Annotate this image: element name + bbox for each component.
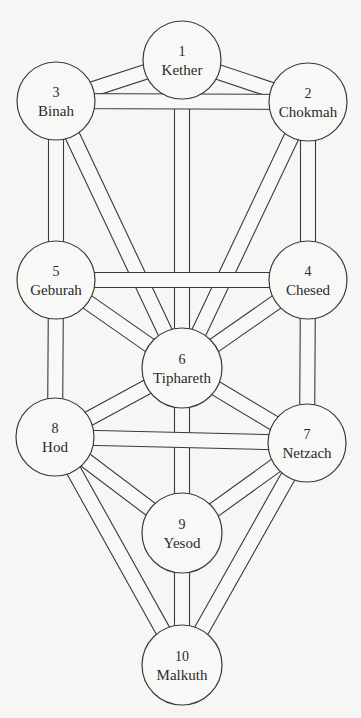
- sephirah-circle: [142, 493, 222, 573]
- sephirah-kether: 1Kether: [143, 21, 221, 99]
- sephirah-number: 5: [53, 264, 60, 279]
- sephirah-circle: [16, 398, 94, 476]
- sephirah-tiphareth: 6Tiphareth: [142, 328, 222, 408]
- sephirah-name: Geburah: [30, 282, 82, 298]
- sephirah-circle: [269, 63, 347, 141]
- sephirah-name: Tiphareth: [153, 370, 211, 386]
- sephirah-name: Yesod: [164, 535, 201, 551]
- sephirah-yesod: 9Yesod: [142, 493, 222, 573]
- sephirah-number: 1: [179, 44, 186, 59]
- sephirah-name: Malkuth: [157, 667, 208, 683]
- sephirah-circle: [268, 404, 346, 482]
- sephirah-circle: [142, 625, 222, 705]
- sephirah-circle: [143, 21, 221, 99]
- sephirah-number: 2: [305, 86, 312, 101]
- sephirah-name: Chesed: [286, 282, 331, 298]
- sephirah-number: 9: [179, 517, 186, 532]
- sephirah-chokmah: 2Chokmah: [269, 63, 347, 141]
- sephirah-name: Chokmah: [279, 104, 338, 120]
- sephirah-circle: [17, 62, 95, 140]
- sephirah-number: 10: [175, 649, 189, 664]
- tree-of-life-diagram: 1Kether2Chokmah3Binah4Chesed5Geburah6Tip…: [0, 0, 361, 718]
- sephirah-circle: [17, 241, 95, 319]
- sephirah-name: Hod: [42, 439, 68, 455]
- sephirah-geburah: 5Geburah: [17, 241, 95, 319]
- sephirah-binah: 3Binah: [17, 62, 95, 140]
- sephirah-chesed: 4Chesed: [269, 241, 347, 319]
- sephirah-number: 4: [305, 264, 312, 279]
- sephirah-name: Kether: [162, 62, 203, 78]
- sephirah-number: 3: [53, 85, 60, 100]
- sephirah-malkuth: 10Malkuth: [142, 625, 222, 705]
- sephirah-number: 6: [179, 352, 186, 367]
- sephirah-name: Binah: [38, 103, 74, 119]
- sephirah-number: 8: [52, 421, 59, 436]
- sephirah-circle: [269, 241, 347, 319]
- sephirah-netzach: 7Netzach: [268, 404, 346, 482]
- sephirah-name: Netzach: [282, 445, 332, 461]
- sephirah-number: 7: [304, 427, 311, 442]
- sephirah-hod: 8Hod: [16, 398, 94, 476]
- sephirah-circle: [142, 328, 222, 408]
